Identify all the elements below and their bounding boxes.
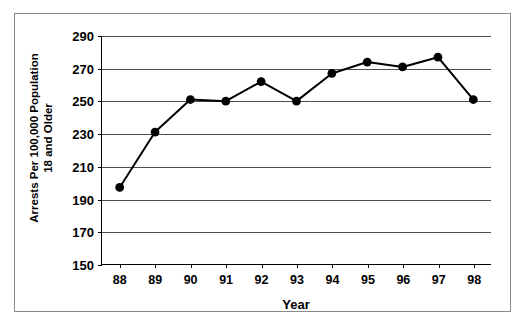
data-point-90 [186, 95, 195, 104]
data-point-88 [115, 183, 124, 192]
x-axis-label-95: 95 [361, 273, 375, 287]
x-axis-label-93: 93 [290, 273, 304, 287]
x-tick-mark-93 [297, 264, 298, 268]
data-point-96 [398, 63, 407, 72]
y-tick-mark-170 [98, 232, 102, 233]
data-point-89 [151, 128, 160, 137]
series-line [120, 57, 474, 187]
x-tick-mark-90 [191, 264, 192, 268]
x-tick-mark-95 [368, 264, 369, 268]
gridline-290 [102, 36, 491, 37]
x-axis-label-94: 94 [326, 273, 340, 287]
x-axis-label-89: 89 [148, 273, 162, 287]
x-axis-label-97: 97 [432, 273, 446, 287]
gridline-230 [102, 134, 491, 135]
y-axis-label-170: 170 [72, 225, 94, 240]
x-axis-label-90: 90 [184, 273, 198, 287]
chart-frame: Arrests Per 100,000 Population 18 and Ol… [14, 13, 511, 312]
gridline-210 [102, 167, 491, 168]
y-tick-mark-230 [98, 134, 102, 135]
y-tick-mark-270 [98, 69, 102, 70]
x-axis-label-98: 98 [467, 273, 481, 287]
data-point-95 [363, 58, 372, 67]
x-axis-label-88: 88 [113, 273, 127, 287]
x-axis-label-96: 96 [396, 273, 410, 287]
data-point-94 [327, 69, 336, 78]
y-axis-label-150: 150 [72, 258, 94, 273]
y-tick-mark-290 [98, 36, 102, 37]
data-point-97 [434, 53, 443, 62]
line-series [102, 36, 491, 264]
x-tick-mark-98 [474, 264, 475, 268]
y-axis-label-190: 190 [72, 192, 94, 207]
gridline-270 [102, 69, 491, 70]
y-axis-label-230: 230 [72, 127, 94, 142]
data-point-98 [469, 95, 478, 104]
x-tick-mark-88 [120, 264, 121, 268]
y-axis-label-210: 210 [72, 159, 94, 174]
y-tick-mark-250 [98, 101, 102, 102]
y-axis-label-250: 250 [72, 94, 94, 109]
x-tick-mark-92 [262, 264, 263, 268]
gridline-250 [102, 101, 491, 102]
x-axis-label-91: 91 [219, 273, 233, 287]
y-axis-label-290: 290 [72, 29, 94, 44]
y-axis-title-line-2: 18 and Older [41, 38, 55, 238]
y-tick-mark-210 [98, 167, 102, 168]
chart-canvas: Arrests Per 100,000 Population 18 and Ol… [15, 14, 510, 311]
x-axis-label-92: 92 [255, 273, 269, 287]
y-tick-mark-190 [98, 200, 102, 201]
x-tick-mark-97 [439, 264, 440, 268]
x-tick-mark-96 [403, 264, 404, 268]
x-axis-title: Year [101, 297, 491, 312]
x-tick-mark-91 [226, 264, 227, 268]
x-tick-mark-89 [155, 264, 156, 268]
y-axis-label-270: 270 [72, 61, 94, 76]
gridline-170 [102, 232, 491, 233]
x-tick-mark-94 [332, 264, 333, 268]
y-axis-title: Arrests Per 100,000 Population 18 and Ol… [27, 38, 55, 238]
y-axis-title-line-1: Arrests Per 100,000 Population [27, 38, 41, 238]
data-point-92 [257, 77, 266, 86]
plot-area: 150170190210230250270290 888990919293949… [101, 36, 491, 265]
y-tick-mark-150 [98, 265, 102, 266]
gridline-190 [102, 200, 491, 201]
